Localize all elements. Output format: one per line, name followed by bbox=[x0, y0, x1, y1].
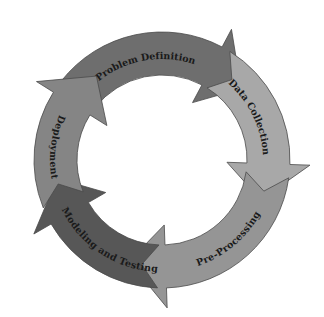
arrow-deployment bbox=[34, 76, 107, 208]
cycle-diagram: Problem DefinitionData CollectionPre-Pro… bbox=[0, 0, 324, 317]
cycle-arrows bbox=[34, 29, 310, 308]
